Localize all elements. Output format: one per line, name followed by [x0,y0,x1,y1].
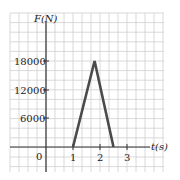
y-tick-18000: 18000 [14,56,46,67]
origin-label: 0 [36,151,42,162]
force-series-line [73,61,114,147]
x-tick-2: 2 [97,152,103,163]
y-tick-12000: 12000 [14,85,46,96]
x-tick-3: 3 [124,152,130,163]
y-axis-label: F(N) [33,13,58,24]
force-time-chart: F(N) t(s) 0 1 2 3 18000 12000 6000 [0,0,180,180]
x-axis-label: t(s) [151,141,168,152]
y-tick-6000: 6000 [20,113,45,124]
x-tick-1: 1 [70,152,76,163]
ticks [43,61,127,150]
